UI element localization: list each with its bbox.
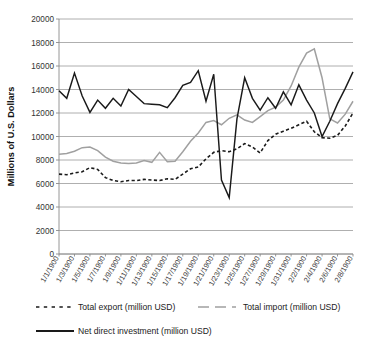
legend-label: Net direct investment (million USD) xyxy=(78,326,212,336)
gridlines xyxy=(59,19,353,254)
y-axis-title: Millions of U.S. Dollars xyxy=(6,87,16,187)
y-axis-tick-labels: 0200040006000800010000120001400016000180… xyxy=(31,15,54,259)
y-tick-label: 12000 xyxy=(31,109,54,118)
y-axis-title-text: Millions of U.S. Dollars xyxy=(6,87,16,187)
y-tick-label: 8000 xyxy=(36,156,55,165)
y-tick-label: 4000 xyxy=(36,203,55,212)
chart-legend: Total export (million USD)Total import (… xyxy=(36,302,341,336)
chart-container: 0200040006000800010000120001400016000180… xyxy=(0,0,367,350)
y-tick-label: 10000 xyxy=(31,133,54,142)
x-axis-tick-labels: 1/1/19001/3/19001/5/19001/7/19001/9/1900… xyxy=(39,254,355,287)
legend-label: Total import (million USD) xyxy=(243,302,341,312)
y-tick-label: 6000 xyxy=(36,180,55,189)
line-chart: 0200040006000800010000120001400016000180… xyxy=(0,0,367,350)
y-tick-label: 2000 xyxy=(36,227,55,236)
axes xyxy=(56,19,353,257)
legend-label: Total export (million USD) xyxy=(78,302,176,312)
y-tick-label: 14000 xyxy=(31,86,54,95)
y-tick-label: 16000 xyxy=(31,62,54,71)
y-tick-label: 18000 xyxy=(31,39,54,48)
data-series xyxy=(59,49,353,198)
y-tick-label: 20000 xyxy=(31,15,54,24)
